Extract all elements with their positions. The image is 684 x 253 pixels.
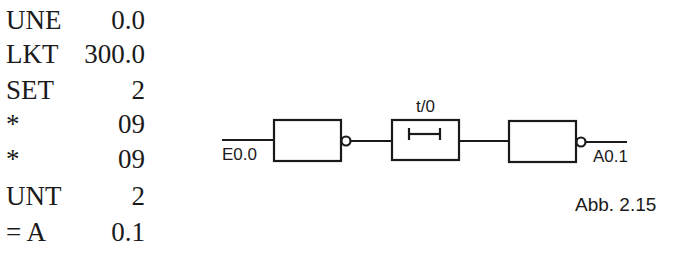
negation-circle-icon [342,137,351,146]
function-block-diagram: E0.0 t/0 A0.1 Abb. 2.15 [0,0,684,253]
output-label: A0.1 [593,148,628,165]
figure-caption: Abb. 2.15 [575,195,656,214]
input-block [274,120,341,161]
negation-circle-icon [577,138,586,147]
output-block [509,121,576,162]
timer-block [392,120,459,160]
timer-label: t/0 [416,98,435,115]
input-label: E0.0 [222,146,257,163]
